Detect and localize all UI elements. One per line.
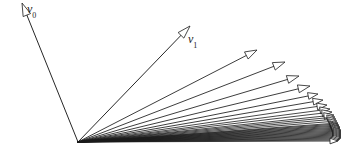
vector-shaft xyxy=(78,34,182,142)
vector-shaft xyxy=(26,14,78,142)
vector-arrowhead xyxy=(244,50,257,59)
vector-arrowhead xyxy=(272,62,285,70)
vector-arrowhead xyxy=(297,85,310,93)
vector-group xyxy=(22,3,341,144)
vector-label-v0-subscript: 0 xyxy=(32,11,36,20)
vector-label-v0: v0 xyxy=(27,3,36,18)
vector-diagram-canvas xyxy=(0,0,355,151)
vector-label-v1: v1 xyxy=(188,33,197,48)
vector-arrowhead xyxy=(286,76,299,84)
vector-sequence-figure: v0 v1 xyxy=(0,0,355,151)
vector-label-v1-subscript: 1 xyxy=(193,41,197,50)
